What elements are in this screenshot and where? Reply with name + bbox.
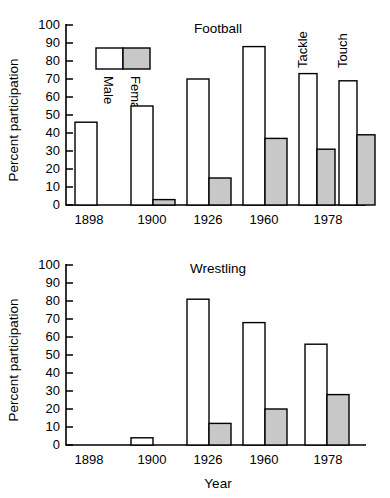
chart-panel-wrestling: Percent participation 0 10 20 30 40 50 6… — [0, 248, 390, 498]
y-tick-60: 60 — [46, 89, 60, 104]
bar-w-1960-male — [243, 323, 265, 445]
football-plot: Percent participation 0 10 20 30 40 50 6… — [0, 0, 390, 248]
y-tick-0-w: 0 — [53, 437, 60, 452]
x-cat-1900-wrestling: 1900 — [138, 452, 167, 467]
annotation-tackle: Tackle — [295, 31, 310, 68]
y-tick-90-w: 90 — [46, 275, 60, 290]
bar-1978-touch-female — [357, 135, 375, 205]
x-cat-1926-wrestling: 1926 — [194, 452, 223, 467]
y-tick-80-w: 80 — [46, 293, 60, 308]
x-cat-1900-football: 1900 — [138, 212, 167, 227]
legend-label-male: Male — [101, 76, 116, 104]
y-tick-labels-wrestling: 0 10 20 30 40 50 60 70 80 90 100 — [38, 257, 60, 452]
chart-panel-football: Percent participation 0 10 20 30 40 50 6… — [0, 0, 390, 248]
bar-1978-tackle-male — [299, 74, 317, 205]
y-tick-60-w: 60 — [46, 329, 60, 344]
y-tick-100-w: 100 — [38, 257, 60, 272]
y-tick-90: 90 — [46, 35, 60, 50]
x-cat-1978-wrestling: 1978 — [314, 452, 343, 467]
figure-root: Percent participation 0 10 20 30 40 50 6… — [0, 0, 390, 498]
bar-1978-touch-male — [339, 81, 357, 205]
legend-swatch-female — [123, 48, 150, 69]
y-tick-40-w: 40 — [46, 365, 60, 380]
bar-1926-female — [209, 178, 231, 205]
y-tick-70-w: 70 — [46, 311, 60, 326]
y-tick-20-w: 20 — [46, 401, 60, 416]
bar-1978-tackle-female — [317, 149, 335, 205]
bar-1898-male — [75, 122, 97, 205]
y-tick-70: 70 — [46, 71, 60, 86]
bar-w-1926-male — [187, 299, 209, 445]
legend-swatch-male — [96, 48, 123, 69]
y-tick-0: 0 — [53, 197, 60, 212]
y-tick-50-w: 50 — [46, 347, 60, 362]
y-tick-50: 50 — [46, 107, 60, 122]
x-cat-1960-wrestling: 1960 — [250, 452, 279, 467]
y-tick-marks-wrestling — [66, 265, 73, 445]
y-tick-10-w: 10 — [46, 419, 60, 434]
x-cat-1960-football: 1960 — [250, 212, 279, 227]
y-tick-30: 30 — [46, 143, 60, 158]
x-cat-1926-football: 1926 — [194, 212, 223, 227]
bar-1960-female — [265, 138, 287, 205]
y-tick-40: 40 — [46, 125, 60, 140]
annotation-touch: Touch — [335, 33, 350, 68]
chart-title-wrestling: Wrestling — [190, 261, 246, 276]
y-tick-30-w: 30 — [46, 383, 60, 398]
x-cat-1978-football: 1978 — [314, 212, 343, 227]
x-cat-1898-football: 1898 — [75, 212, 104, 227]
wrestling-plot: Percent participation 0 10 20 30 40 50 6… — [0, 248, 390, 498]
x-axis-title: Year — [204, 476, 232, 491]
bar-1926-male — [187, 79, 209, 205]
y-tick-80: 80 — [46, 53, 60, 68]
bar-1900-male — [131, 106, 153, 205]
chart-title-football: Football — [194, 21, 242, 36]
bar-1960-male — [243, 47, 265, 205]
bar-w-1900-male — [131, 438, 153, 445]
bar-w-1960-female — [265, 409, 287, 445]
bar-w-1926-female — [209, 423, 231, 445]
y-tick-marks-football — [66, 25, 73, 205]
bar-w-1978-male — [305, 344, 327, 445]
y-tick-labels-football: 0 10 20 30 40 50 60 70 80 90 100 — [38, 17, 60, 212]
y-tick-20: 20 — [46, 161, 60, 176]
y-axis-title-wrestling: Percent participation — [6, 298, 21, 421]
bar-w-1978-female — [327, 395, 349, 445]
bar-1900-female — [153, 200, 175, 205]
y-tick-100: 100 — [38, 17, 60, 32]
y-axis-title-football: Percent participation — [6, 58, 21, 181]
x-cat-1898-wrestling: 1898 — [75, 452, 104, 467]
y-tick-10: 10 — [46, 179, 60, 194]
